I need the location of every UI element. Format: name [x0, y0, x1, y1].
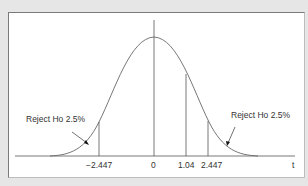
tick-1-04: 1.04 [178, 160, 195, 170]
left-reject-label: Reject Ho 2.5% [26, 114, 85, 124]
tick-pos-2447: 2.447 [201, 160, 223, 170]
t-distribution-chart: Reject Ho 2.5% Reject Ho 2.5% −2.447 0 1… [0, 0, 308, 186]
tick-zero: 0 [151, 160, 156, 170]
right-arrow [228, 127, 235, 143]
tick-neg-2447: −2.447 [86, 160, 113, 170]
left-arrow [72, 132, 87, 143]
right-reject-label: Reject Ho 2.5% [231, 110, 290, 120]
axis-label-t: t [292, 160, 295, 170]
